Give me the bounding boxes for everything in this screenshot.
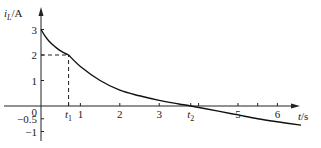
y-axis-arrow-icon [39, 7, 44, 16]
y-tick-label: −0.5 [17, 113, 37, 125]
x-tick-label: 1 [78, 108, 84, 120]
y-tick-label: 3 [32, 24, 38, 36]
x-tick-label: t2 [187, 108, 194, 123]
y-tick-label: 1 [32, 75, 38, 87]
current-curve-segment [69, 55, 301, 125]
axes: t1123t2563210−0.5−1 [4, 7, 300, 141]
x-axis-arrow-icon [291, 104, 300, 109]
chart-container: t1123t2563210−0.5−1 iL/A t/s [0, 0, 321, 148]
y-tick-label: −1 [25, 126, 37, 138]
x-tick-label: t1 [65, 108, 72, 123]
y-tick-label: 2 [32, 49, 38, 61]
inductor-current-plot: t1123t2563210−0.5−1 iL/A t/s [0, 0, 321, 148]
axis-labels: iL/A t/s [4, 7, 308, 122]
y-axis-label: iL/A [4, 7, 23, 22]
x-tick-label: 2 [117, 108, 123, 120]
x-tick-label: 6 [275, 108, 281, 120]
dashed-guides [41, 55, 69, 106]
x-axis-label: t/s [298, 110, 308, 122]
x-tick-label: 3 [156, 108, 162, 120]
current-curve-segment [41, 30, 69, 56]
